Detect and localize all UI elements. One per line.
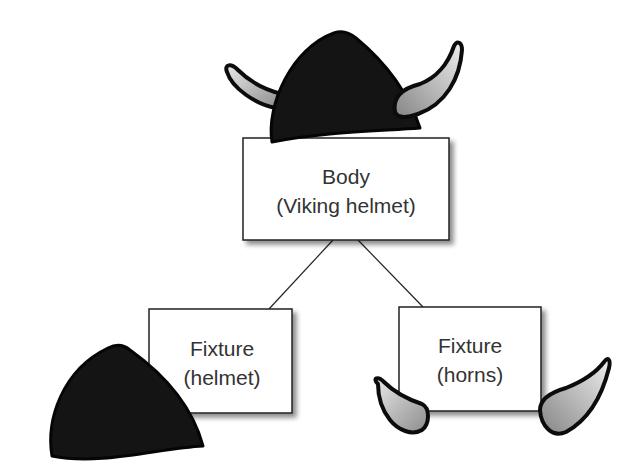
- body-title: Body: [322, 165, 370, 188]
- body-subtitle: (Viking helmet): [276, 194, 416, 217]
- viking-helmet-icon: [226, 32, 462, 142]
- fixture-horns-title: Fixture: [438, 334, 502, 357]
- helmet-dome-icon: [271, 32, 420, 142]
- fixture-horns-subtitle: (horns): [437, 363, 504, 386]
- diagram-canvas: Body (Viking helmet) Fixture (helmet) Fi…: [0, 0, 641, 475]
- body-node: Body (Viking helmet): [243, 138, 449, 240]
- horn-right-icon: [395, 43, 462, 117]
- fixture-helmet-title: Fixture: [190, 337, 254, 360]
- fixture-horns-box: [399, 307, 541, 411]
- fixture-horns-node: Fixture (horns): [399, 307, 541, 411]
- body-box: [243, 138, 449, 240]
- edge-body-to-fixture-horns: [358, 240, 423, 307]
- horn-piece-right-icon: [540, 359, 610, 433]
- horn-left-icon: [226, 65, 282, 108]
- edge-body-to-fixture-helmet: [269, 240, 333, 309]
- fixture-helmet-subtitle: (helmet): [183, 366, 260, 389]
